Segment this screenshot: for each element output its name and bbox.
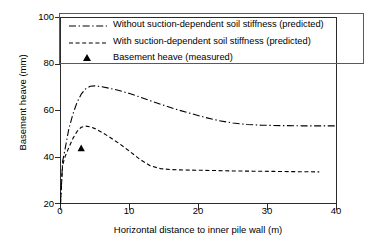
legend-item-measured: Basement heave (measured) bbox=[66, 49, 233, 64]
triangle-marker-icon bbox=[66, 51, 110, 63]
legend-label-with-suction: With suction-dependent soil stiffness (p… bbox=[113, 36, 311, 46]
measured-data-point bbox=[78, 145, 85, 152]
x-axis-ticks bbox=[61, 204, 337, 210]
legend: Without suction-dependent soil stiffness… bbox=[59, 13, 364, 64]
legend-item-with-suction: With suction-dependent soil stiffness (p… bbox=[66, 33, 311, 48]
data-series-layer bbox=[61, 86, 337, 204]
series-line-1 bbox=[61, 126, 320, 203]
legend-item-without-suction: Without suction-dependent soil stiffness… bbox=[66, 16, 324, 31]
legend-label-measured: Basement heave (measured) bbox=[113, 52, 233, 62]
dashed-line-icon bbox=[66, 35, 110, 47]
legend-label-without-suction: Without suction-dependent soil stiffness… bbox=[113, 19, 324, 29]
series-line-0 bbox=[61, 86, 337, 204]
chart-figure: Basement heave (mm) 100 80 60 40 20 0 10… bbox=[0, 0, 373, 246]
dash-dot-line-icon bbox=[66, 18, 110, 30]
